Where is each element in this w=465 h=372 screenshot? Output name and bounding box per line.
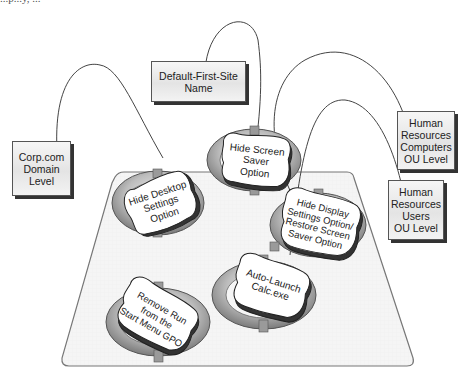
domain-label-line: Corp.com xyxy=(19,151,65,163)
hr-computers-label-line: Resources xyxy=(401,129,451,141)
hr-users-label-line: Human xyxy=(399,186,433,198)
hr-computers-label-box: Human Resources Computers OU Level xyxy=(397,111,455,170)
hr-users-label-line: Resources xyxy=(391,198,441,210)
domain-label-line: Level xyxy=(29,175,54,187)
site-label-box: Default-First-Site Name xyxy=(151,61,246,102)
hr-computers-label-line: Computers xyxy=(400,141,451,153)
hr-users-label-line: Users xyxy=(402,210,429,222)
site-label-line: Name xyxy=(184,82,212,94)
gpo-diagram: ...p...y, ... xyxy=(0,0,465,372)
gpo-hide-screensaver-text: Hide Screen Saver Option xyxy=(220,134,293,189)
domain-label-box: Corp.com Domain Level xyxy=(12,141,71,196)
hr-users-label-line: OU Level xyxy=(394,222,438,234)
hr-users-label-box: Human Resources Users OU Level xyxy=(388,180,444,240)
hr-computers-label-line: OU Level xyxy=(404,153,448,165)
site-label-line: Default-First-Site xyxy=(159,70,238,82)
domain-label-line: Domain xyxy=(23,163,59,175)
gpo-text-line: Option xyxy=(240,165,271,180)
hr-computers-label-line: Human xyxy=(409,117,443,129)
